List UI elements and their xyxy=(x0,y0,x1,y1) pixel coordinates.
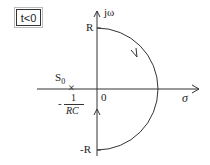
imaginary-axis-label: jω xyxy=(104,7,114,18)
condition-label: t<0 xyxy=(21,12,37,24)
condition-box: t<0 xyxy=(16,9,41,26)
pole-value-numerator: 1 xyxy=(71,93,76,103)
pole-name-label: S0 xyxy=(55,72,65,86)
origin-label: 0 xyxy=(101,92,107,103)
contour-arc-arrow-icon xyxy=(131,48,137,57)
radius-bottom-label: -R xyxy=(80,144,91,155)
pole-subscript: 0 xyxy=(61,77,65,86)
radius-top-label: R xyxy=(86,22,93,33)
pole-value-sign: - xyxy=(58,98,62,109)
real-axis-label: σ xyxy=(182,92,188,104)
pole-value-denominator: RC xyxy=(66,106,79,116)
